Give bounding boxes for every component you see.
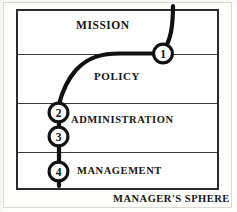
band-divider-admin-management xyxy=(18,152,217,153)
figure-caption: MANAGER'S SPHERE xyxy=(113,193,230,204)
managers-sphere-box xyxy=(16,9,219,190)
band-label-mission: MISSION xyxy=(76,20,130,32)
band-divider-policy-admin xyxy=(18,103,217,104)
band-label-administration: ADMINISTRATION xyxy=(71,115,174,126)
band-label-policy: POLICY xyxy=(94,71,140,82)
band-divider-mission-policy xyxy=(18,54,217,55)
band-label-management: MANAGEMENT xyxy=(77,166,162,177)
managers-sphere-figure: MISSION POLICY ADMINISTRATION MANAGEMENT… xyxy=(0,0,237,212)
